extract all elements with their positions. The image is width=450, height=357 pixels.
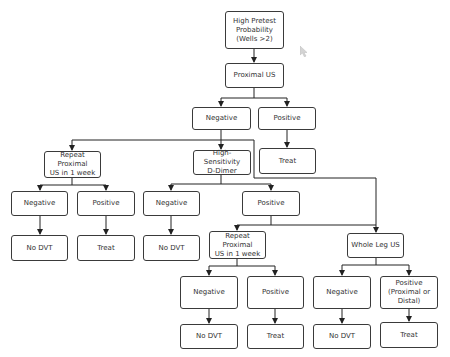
node-repeat-proximal-us-1: Repeat Proximal US in 1 week	[44, 151, 101, 178]
node-repeat2-negative: Negative	[180, 276, 238, 309]
node-repeat2-no-dvt: No DVT	[180, 324, 238, 349]
node-wholeleg-positive: Positive (Proximal or Distal)	[380, 276, 438, 309]
node-ddimer-positive: Positive	[242, 191, 300, 216]
node-repeat2-positive: Positive	[247, 276, 304, 309]
node-proximal-positive-treat: Treat	[259, 148, 316, 174]
mouse-cursor-icon	[300, 46, 308, 57]
node-wholeleg-negative: Negative	[313, 276, 371, 309]
node-proximal-negative: Negative	[192, 107, 251, 130]
node-repeat1-positive: Positive	[77, 191, 135, 216]
node-proximal-us: Proximal US	[225, 63, 284, 88]
node-ddimer-negative: Negative	[143, 191, 200, 216]
node-repeat1-treat: Treat	[77, 235, 135, 261]
node-repeat1-no-dvt: No DVT	[11, 235, 68, 261]
node-repeat1-negative: Negative	[11, 191, 68, 216]
node-high-sensitivity-d-dimer: High-Sensitivity D-Dimer	[193, 150, 251, 175]
node-wholeleg-treat: Treat	[380, 322, 438, 348]
node-wholeleg-no-dvt: No DVT	[313, 324, 371, 349]
node-whole-leg-us: Whole Leg US	[347, 233, 404, 258]
node-high-pretest-probability: High Pretest Probability (Wells >2)	[225, 11, 284, 49]
node-proximal-positive: Positive	[258, 107, 316, 130]
node-repeat-proximal-us-2: Repeat Proximal US in 1 week	[209, 231, 266, 259]
node-repeat2-treat: Treat	[247, 324, 304, 349]
node-ddimer-no-dvt: No DVT	[143, 235, 200, 261]
